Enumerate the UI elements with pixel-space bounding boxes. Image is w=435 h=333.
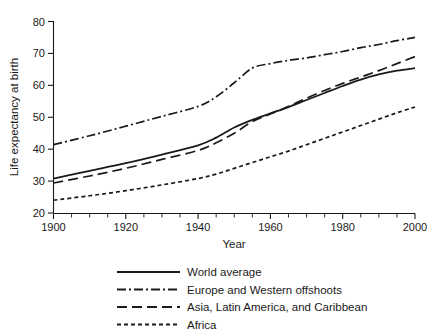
chart-figure: 20304050607080 190019201940196019802000 …: [0, 0, 435, 333]
axes-group: [54, 21, 416, 214]
y-tick-label: 20: [33, 207, 45, 219]
y-tick-label: 60: [33, 79, 45, 91]
y-axis-title: Life expectancy at birth: [8, 58, 20, 176]
legend-item: Asia, Latin America, and Caribbean: [117, 301, 367, 313]
y-tick-label: 50: [33, 111, 45, 123]
series-line-africa: [54, 107, 416, 200]
x-tick-label: 1960: [258, 221, 282, 233]
y-tick-label: 30: [33, 175, 45, 187]
legend-label: Europe and Western offshoots: [187, 284, 342, 296]
legend-item: Europe and Western offshoots: [117, 284, 342, 296]
legend-label: Asia, Latin America, and Caribbean: [187, 301, 367, 313]
chart-legend: World averageEurope and Western offshoot…: [117, 266, 367, 331]
y-tick-label: 40: [33, 143, 45, 155]
y-tick-label: 70: [33, 47, 45, 59]
y-axis-ticks: 20304050607080: [33, 16, 54, 220]
y-tick-label: 80: [33, 16, 45, 28]
x-tick-label: 1980: [330, 221, 354, 233]
x-axis-title: Year: [222, 238, 245, 250]
data-series-group: [54, 37, 416, 200]
x-axis-minor-ticks: [72, 214, 397, 218]
x-tick-label: 1900: [41, 221, 65, 233]
series-line-world-average: [54, 68, 416, 178]
series-line-europe-and-western-offshoots: [54, 37, 416, 144]
legend-label: World average: [187, 266, 262, 278]
legend-label: Africa: [187, 319, 217, 331]
series-line-asia-latin-america-and-caribbean: [54, 57, 416, 183]
x-tick-label: 2000: [403, 221, 427, 233]
life-expectancy-line-chart: 20304050607080 190019201940196019802000 …: [0, 0, 435, 333]
x-tick-label: 1920: [114, 221, 138, 233]
x-tick-label: 1940: [186, 221, 210, 233]
legend-item: Africa: [117, 319, 217, 331]
legend-item: World average: [117, 266, 262, 278]
